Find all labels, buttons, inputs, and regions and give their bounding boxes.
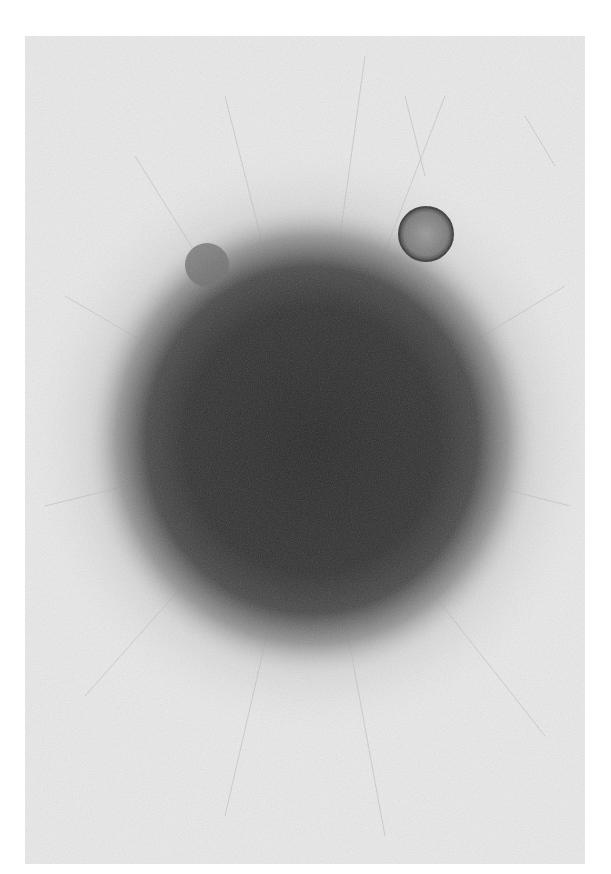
micrograph-panel: dense spherical cell aggregate (spheroid…	[25, 36, 585, 864]
spheroid-illustration	[25, 36, 585, 864]
grain-texture	[25, 36, 585, 864]
